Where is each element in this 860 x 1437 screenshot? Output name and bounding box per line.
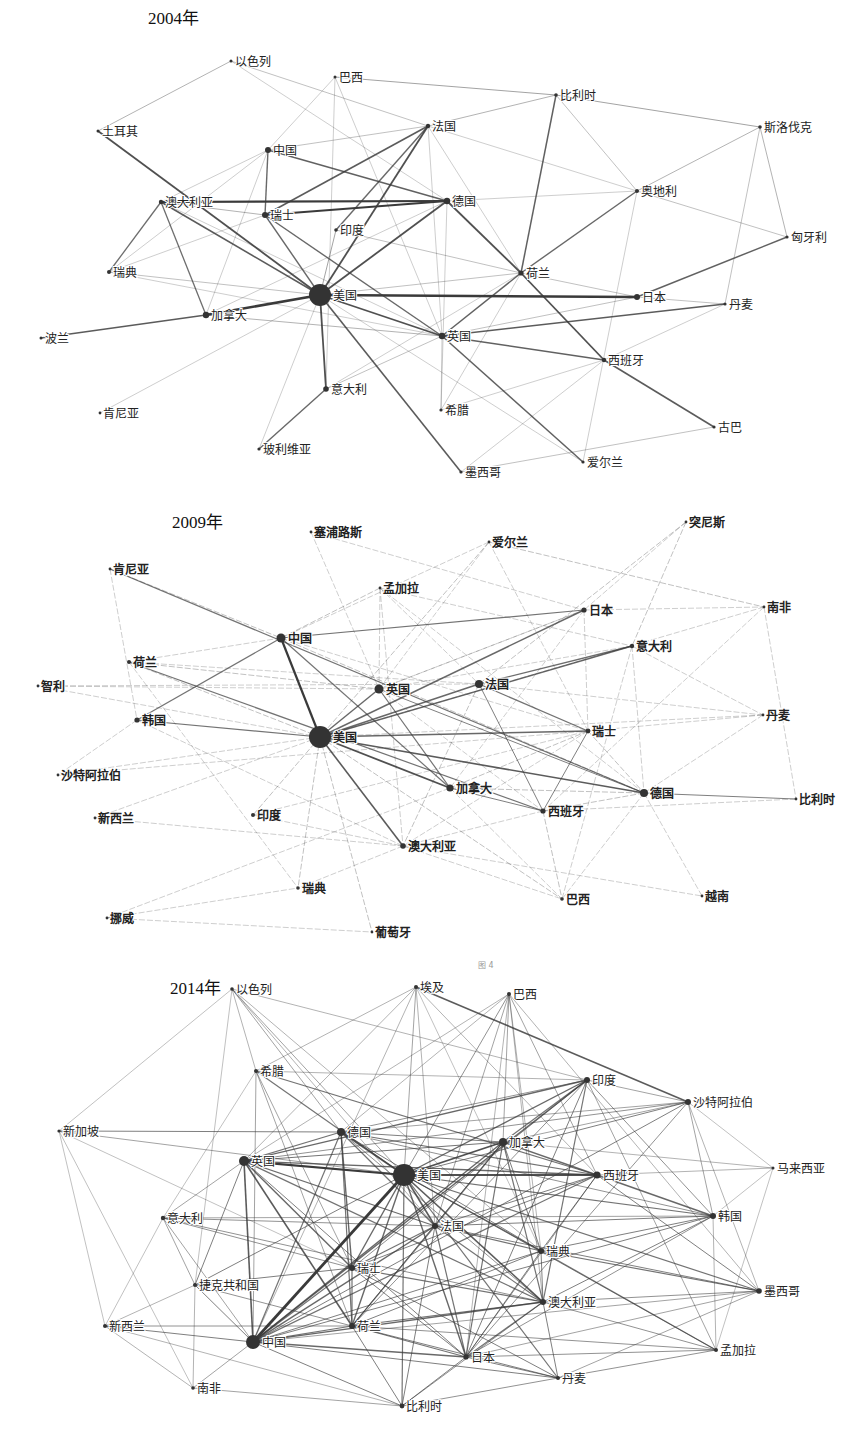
edge-英国-意大利 xyxy=(326,336,442,389)
edge-日本-瑞士 xyxy=(584,610,588,731)
edge-美国-瑞典 xyxy=(298,737,320,888)
edge-智利-法国 xyxy=(38,684,479,686)
edge-美国-比利时 xyxy=(402,1175,404,1406)
node-label: 瑞典 xyxy=(302,881,326,896)
node-label: 中国 xyxy=(262,1335,286,1350)
node-dot xyxy=(634,294,640,300)
edge-瑞士-澳大利亚 xyxy=(403,731,588,846)
edge-斯洛伐克-丹麦 xyxy=(725,127,760,304)
edge-德国-越南 xyxy=(644,793,702,896)
edge-中国-加拿大 xyxy=(281,638,450,788)
node-dot xyxy=(254,1069,258,1073)
node-dot xyxy=(309,726,331,748)
node-label: 马来西亚 xyxy=(777,1162,825,1176)
edge-英国-澳大利亚 xyxy=(244,1161,543,1302)
edge-比利时-奥地利 xyxy=(556,95,637,191)
edge-美国-玻利维亚 xyxy=(259,295,320,449)
node-dot xyxy=(159,200,163,204)
panel-year-title: 2014年 xyxy=(170,979,221,998)
edge-澳大利亚-瑞典 xyxy=(109,202,161,272)
edge-意大利-丹麦 xyxy=(632,646,763,715)
node-label: 智利 xyxy=(40,679,65,694)
node-dot xyxy=(560,897,564,901)
node-label: 肯尼亚 xyxy=(113,562,149,577)
edge-以色列-希腊 xyxy=(232,989,256,1071)
node-label: 墨西哥 xyxy=(764,1285,800,1299)
node-label: 葡萄牙 xyxy=(374,925,411,940)
node-label: 日本 xyxy=(471,1351,495,1365)
node-label: 韩国 xyxy=(142,713,166,728)
network-panel-2014: 以色列埃及巴西希腊印度沙特阿拉伯新加坡德国加拿大英国美国西班牙马来西亚意大利法国… xyxy=(57,979,824,1414)
edge-捷克共和国-南非 xyxy=(193,1285,195,1388)
edge-以色列-捷克共和国 xyxy=(195,989,232,1285)
edge-意大利-捷克共和国 xyxy=(163,1218,195,1285)
edge-日本-中国 xyxy=(281,610,584,638)
edge-西班牙-巴西 xyxy=(543,811,562,899)
edge-奥地利-法国 xyxy=(428,126,637,191)
node-label: 美国 xyxy=(333,289,357,303)
edge-意大利-美国 xyxy=(320,646,632,737)
edge-美国-意大利 xyxy=(320,295,326,389)
edge-瑞士-西班牙 xyxy=(543,731,588,811)
node-dot xyxy=(161,1216,165,1220)
node-dot xyxy=(602,358,606,362)
node-dot xyxy=(109,568,112,571)
node-dot xyxy=(756,1288,762,1294)
node-label: 沙特阿拉伯 xyxy=(693,1095,753,1110)
node-label: 意大利 xyxy=(636,639,672,654)
edge-日本-比利时 xyxy=(402,1357,466,1406)
edge-法国-英国 xyxy=(428,126,442,336)
edge-瑞士-丹麦 xyxy=(352,1268,558,1378)
edge-新加坡-瑞士 xyxy=(59,1131,352,1268)
edge-巴西-意大利 xyxy=(326,77,335,389)
edge-法国-墨西哥 xyxy=(435,1226,759,1291)
node-label: 加拿大 xyxy=(509,1135,545,1150)
node-label: 瑞士 xyxy=(592,724,616,739)
node-label: 墨西哥 xyxy=(465,466,501,480)
edge-爱尔兰-英国 xyxy=(379,542,489,689)
node-label: 突尼斯 xyxy=(689,515,725,530)
edge-瑞典-美国 xyxy=(109,272,320,295)
node-label: 德国 xyxy=(650,786,674,801)
node-dot xyxy=(685,521,688,524)
node-label: 比利时 xyxy=(560,89,596,103)
node-label: 奥地利 xyxy=(641,185,677,199)
network-panel-2009: 塞浦路斯突尼斯爱尔兰肯尼亚孟加拉日本南非中国意大利荷兰智利英国法国韩国丹麦美国瑞… xyxy=(37,513,836,940)
node-label: 英国 xyxy=(447,330,471,344)
network-panel-2004: 以色列巴西比利时斯洛伐克土耳其法国中国奥地利澳大利亚德国瑞士印度匈牙利瑞典荷兰美… xyxy=(40,9,827,480)
edge-挪威-加拿大 xyxy=(107,788,450,918)
node-dot xyxy=(97,130,100,133)
edge-巴西-比利时 xyxy=(335,77,556,95)
edge-奥地利-荷兰 xyxy=(521,191,637,273)
node-dot xyxy=(57,1129,60,1132)
edge-荷兰-瑞典 xyxy=(129,662,298,888)
panel-year-title: 2009年 xyxy=(172,513,223,532)
node-label: 日本 xyxy=(642,291,666,305)
edge-法国-印度 xyxy=(336,126,428,230)
node-dot xyxy=(191,1386,195,1390)
node-dot xyxy=(444,198,450,204)
edge-韩国-沙特阿拉伯 xyxy=(58,720,137,775)
node-dot xyxy=(400,1404,405,1409)
node-dot xyxy=(758,125,762,129)
node-label: 肯尼亚 xyxy=(103,407,139,421)
node-label: 韩国 xyxy=(718,1209,742,1224)
edge-印度-日本 xyxy=(466,1080,587,1357)
node-label: 西班牙 xyxy=(608,354,644,368)
node-dot xyxy=(246,1335,260,1349)
node-dot xyxy=(310,531,313,534)
node-dot xyxy=(540,808,545,813)
node-label: 法国 xyxy=(440,1220,464,1234)
edge-美国-中国 xyxy=(253,1175,404,1342)
node-label: 比利时 xyxy=(406,1400,442,1414)
edge-中国-瑞典 xyxy=(109,150,268,272)
edge-中国-美国 xyxy=(281,638,320,737)
node-dot xyxy=(57,774,60,777)
node-dot xyxy=(714,1348,718,1352)
node-dot xyxy=(257,447,260,450)
node-dot xyxy=(640,789,648,797)
node-dot xyxy=(239,1156,249,1166)
node-dot xyxy=(432,1223,438,1229)
edge-西班牙-古巴 xyxy=(604,360,714,427)
edge-美国-印度 xyxy=(253,737,320,815)
